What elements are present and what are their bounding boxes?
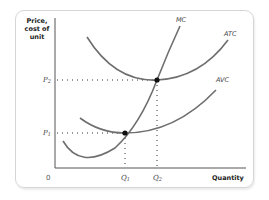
atc-label: ATC bbox=[224, 30, 236, 38]
y-axis-label-line3: unit bbox=[20, 33, 54, 41]
p2-sub: 2 bbox=[48, 78, 51, 84]
mc-curve bbox=[63, 26, 180, 157]
q1-tick-label: Q1 bbox=[121, 174, 130, 183]
q2-tick-label: Q2 bbox=[153, 174, 162, 183]
x-axis-label: Quantity bbox=[212, 174, 244, 182]
p1-sub: 1 bbox=[48, 131, 51, 137]
y-axis-label: Price, cost of unit bbox=[20, 17, 54, 41]
p1-tick-label: P1 bbox=[43, 129, 51, 138]
y-axis-label-line2: cost of bbox=[20, 25, 54, 33]
avc-label: AVC bbox=[216, 76, 229, 84]
avc-curve bbox=[80, 90, 216, 133]
p2-tick-label: P2 bbox=[43, 76, 51, 85]
point-q2-p2 bbox=[154, 77, 159, 82]
q1-sub: 1 bbox=[127, 176, 130, 182]
point-q1-p1 bbox=[122, 130, 127, 135]
q2-sub: 2 bbox=[159, 176, 162, 182]
origin-label: 0 bbox=[46, 174, 50, 182]
mc-label: MC bbox=[176, 16, 186, 24]
y-axis-label-line1: Price, bbox=[20, 17, 54, 25]
atc-curve bbox=[87, 37, 228, 80]
